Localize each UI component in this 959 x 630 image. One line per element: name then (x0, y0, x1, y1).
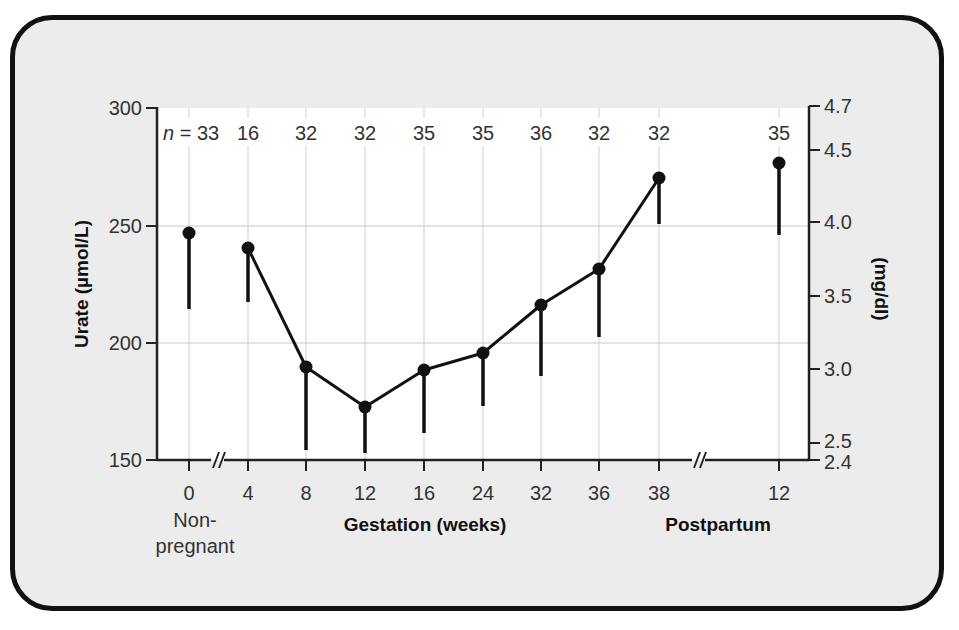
data-point-week-38 (653, 172, 666, 185)
n-label-32: 36 (530, 122, 552, 144)
n-label-38: 32 (648, 122, 670, 144)
non-pregnant-label-line1: Non- (173, 509, 216, 531)
n-label-pp12: 35 (768, 122, 790, 144)
data-point-week-4 (242, 242, 255, 255)
data-point-week-36 (593, 263, 606, 276)
data-point-week-12 (359, 401, 372, 414)
n-label-24: 35 (472, 122, 494, 144)
n-labels: n = 33 16 32 32 35 35 36 32 32 35 (160, 118, 800, 146)
n-label-36: 32 (588, 122, 610, 144)
svg-text:12: 12 (354, 482, 376, 504)
svg-text:24: 24 (472, 482, 494, 504)
svg-text:3.5: 3.5 (824, 285, 852, 307)
data-point-nonpregnant (183, 227, 196, 240)
svg-text:3.0: 3.0 (824, 358, 852, 380)
svg-text:0: 0 (183, 482, 194, 504)
svg-text:32: 32 (530, 482, 552, 504)
data-point-postpartum-12 (773, 157, 786, 170)
svg-text:4: 4 (242, 482, 253, 504)
svg-text:150: 150 (109, 449, 142, 471)
n-label-16: 35 (413, 122, 435, 144)
urate-chart: n = 33 16 32 32 35 35 36 32 32 35 300 25… (0, 0, 959, 630)
x-axis-ticks (189, 460, 779, 471)
right-axis-ticks (809, 106, 820, 460)
svg-text:4.7: 4.7 (824, 95, 852, 117)
svg-text:200: 200 (109, 332, 142, 354)
svg-text:12: 12 (768, 482, 790, 504)
right-axis-labels: 4.7 4.5 4.0 3.5 3.0 2.5 2.4 (824, 95, 852, 473)
n-label-12: 32 (354, 122, 376, 144)
data-point-week-16 (418, 364, 431, 377)
svg-text:8: 8 (300, 482, 311, 504)
svg-text:2.4: 2.4 (824, 451, 852, 473)
svg-text:4.5: 4.5 (824, 139, 852, 161)
gestation-axis-title: Gestation (weeks) (344, 514, 507, 535)
svg-text:36: 36 (588, 482, 610, 504)
data-point-week-8 (300, 361, 313, 374)
n-label-8: 32 (295, 122, 317, 144)
svg-text:4.0: 4.0 (824, 211, 852, 233)
postpartum-axis-title: Postpartum (665, 514, 771, 535)
svg-text:250: 250 (109, 215, 142, 237)
n-label-4: 16 (237, 122, 259, 144)
svg-text:300: 300 (109, 97, 142, 119)
non-pregnant-label-line2: pregnant (156, 535, 235, 557)
n-label-0: n = 33 (163, 122, 219, 144)
svg-text:38: 38 (648, 482, 670, 504)
x-axis-labels: 0 4 8 12 16 24 32 36 38 12 (183, 482, 790, 504)
svg-text:16: 16 (413, 482, 435, 504)
svg-text:2.5: 2.5 (824, 430, 852, 452)
data-point-week-32 (535, 299, 548, 312)
right-axis-title: (mg/dl) (871, 257, 892, 320)
data-point-week-24 (477, 347, 490, 360)
left-axis-ticks (146, 108, 157, 460)
left-axis-labels: 300 250 200 150 (109, 97, 142, 471)
left-axis-title: Urate (µmol/L) (71, 220, 92, 348)
